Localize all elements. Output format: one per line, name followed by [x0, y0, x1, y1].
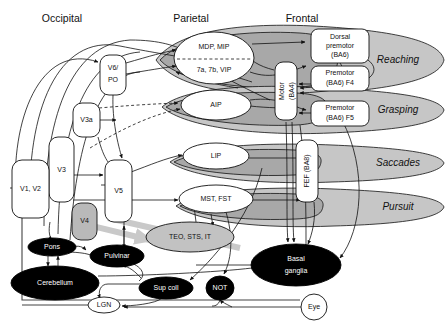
edge-supcoll-lgn — [99, 284, 144, 298]
node-v3a[interactable]: V3a — [73, 103, 100, 137]
node-v4[interactable]: V4 — [72, 203, 97, 240]
node-v6po-label-line2: PO — [108, 76, 119, 83]
node-v6po[interactable]: V6/ PO — [100, 55, 126, 95]
node-v6po-label-line1: V6/ — [108, 64, 119, 71]
node-mst-fst-label: MST, FST — [200, 195, 232, 202]
node-v5-label: V5 — [114, 187, 123, 194]
node-v3-label: V3 — [57, 166, 66, 173]
node-cerebellum[interactable]: Cerebellum — [11, 266, 99, 300]
edge-cerebellum-basal — [98, 268, 252, 276]
node-pulvinar-label: Pulvinar — [104, 252, 130, 259]
node-premotor-f4-line1: Premotor — [326, 69, 355, 76]
node-premotor-f5-line2: (BA6) F5 — [326, 114, 354, 122]
edge-not-down — [212, 300, 220, 306]
node-pons-label: Pons — [44, 243, 60, 250]
node-basal-ganglia-line2: ganglia — [285, 267, 308, 275]
node-basal-ganglia[interactable]: Basal ganglia — [251, 244, 341, 286]
node-premotor-f5-line1: Premotor — [326, 104, 355, 111]
node-aip-label: AIP — [210, 101, 222, 108]
node-premotor-f4[interactable]: Premotor (BA6) F4 — [311, 66, 369, 91]
node-motor-ba4[interactable]: Motor (BA4) — [275, 62, 297, 120]
band-label-reaching: Reaching — [377, 54, 420, 65]
node-mdp-mip-label: MDP, MIP — [199, 43, 230, 50]
node-mst-fst[interactable]: MST, FST — [179, 185, 253, 213]
band-label-grasping: Grasping — [378, 104, 419, 115]
node-not[interactable]: NOT — [206, 276, 234, 300]
node-cerebellum-label: Cerebellum — [37, 279, 73, 286]
band-label-saccades: Saccades — [376, 157, 420, 168]
edge-v1v2-pons — [49, 222, 52, 240]
header-frontal: Frontal — [286, 12, 319, 24]
node-v5[interactable]: V5 — [105, 160, 132, 222]
node-v1v2-label: V1, V2 — [20, 185, 41, 192]
node-sup-coll[interactable]: Sup coll — [139, 277, 193, 299]
node-not-label: NOT — [213, 284, 229, 291]
band-label-pursuit: Pursuit — [382, 201, 414, 212]
node-7a7bvip-label: 7a, 7b, VIP — [197, 66, 232, 73]
node-premotor-f4-line2: (BA6) F4 — [326, 79, 354, 87]
node-lgn[interactable]: LGN — [88, 297, 120, 313]
node-lgn-label: LGN — [97, 301, 111, 308]
node-eye[interactable]: Eye — [301, 294, 327, 320]
connectivity-diagram-svg: V6/ PO V3a V3 V1, V2 V5 V4 MDP, MIP 7a, … — [0, 0, 447, 331]
node-pulvinar[interactable]: Pulvinar — [90, 245, 144, 267]
header-occipital: Occipital — [42, 12, 82, 24]
node-v3a-label: V3a — [80, 116, 93, 123]
node-sup-coll-label: Sup coll — [154, 284, 179, 292]
edge-v6po-v5 — [113, 95, 122, 158]
header-parietal: Parietal — [173, 12, 209, 24]
node-motor-ba4-line2: (BA4) — [288, 82, 296, 100]
node-dorsal-premotor-line3: (BA6) — [331, 51, 349, 59]
edge-premotorf5-basalganglia — [340, 120, 359, 258]
edge-eye-not — [220, 300, 232, 307]
node-aip[interactable]: AIP — [181, 90, 251, 120]
node-teo-sts-it[interactable]: TEO, STS, IT — [146, 222, 234, 252]
edge-supcoll-pulvinar-arrow — [122, 266, 141, 278]
node-mdp-mip-7a7bvip[interactable]: MDP, MIP 7a, 7b, VIP — [174, 32, 254, 84]
node-v4-label: V4 — [80, 217, 89, 224]
node-v1v2[interactable]: V1, V2 — [12, 160, 49, 218]
node-dorsal-premotor[interactable]: Dorsal premotor (BA6) — [311, 29, 369, 63]
node-motor-ba4-line1: Motor — [278, 81, 285, 100]
node-eye-label: Eye — [308, 303, 320, 311]
dashed-v3-aip — [90, 109, 180, 148]
node-lip[interactable]: LIP — [183, 143, 249, 169]
node-premotor-f5[interactable]: Premotor (BA6) F5 — [311, 101, 369, 126]
node-basal-ganglia-line1: Basal — [287, 255, 305, 262]
node-fef-ba8-label: FEF (BA8) — [303, 154, 311, 187]
diagram-canvas: V6/ PO V3a V3 V1, V2 V5 V4 MDP, MIP 7a, … — [0, 0, 447, 331]
edge-supcoll-lgn-2 — [122, 298, 162, 306]
node-fef-ba8[interactable]: FEF (BA8) — [296, 140, 318, 202]
node-lip-label: LIP — [211, 152, 222, 159]
node-dorsal-premotor-line1: Dorsal — [330, 33, 351, 40]
node-dorsal-premotor-line2: premotor — [326, 42, 355, 50]
node-teo-sts-it-label: TEO, STS, IT — [169, 233, 212, 240]
node-v3[interactable]: V3 — [49, 137, 74, 202]
node-pons[interactable]: Pons — [28, 238, 76, 256]
